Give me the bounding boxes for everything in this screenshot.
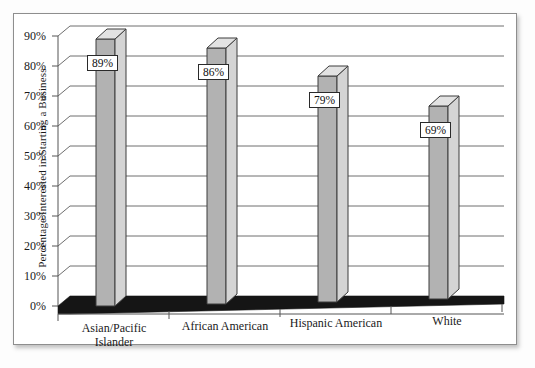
data-label-white: 69% bbox=[420, 122, 451, 138]
x-axis-label-line-1: White bbox=[387, 315, 507, 329]
chart-screenshot: Percentage Interested in Starting a Busi… bbox=[0, 0, 535, 368]
y-tick-label-90: 90% bbox=[0, 30, 46, 42]
x-axis-label-line-1: Asian/Pacific bbox=[54, 322, 174, 336]
plot-area: Percentage Interested in Starting a Busi… bbox=[14, 14, 518, 346]
data-label-african-american: 86% bbox=[198, 64, 229, 80]
x-axis-label-asian-pacific-islander: Asian/Pacific Islander bbox=[54, 322, 174, 349]
bar-front-face bbox=[96, 39, 115, 306]
chart-frame: Percentage Interested in Starting a Busi… bbox=[13, 13, 517, 345]
x-axis-label-african-american: African American bbox=[165, 320, 285, 334]
y-tick-label-0: 0% bbox=[0, 300, 46, 312]
x-axis-label-white: White bbox=[387, 315, 507, 329]
bar-front-face bbox=[318, 76, 337, 302]
data-label-hispanic-american: 79% bbox=[309, 92, 340, 108]
y-tick-label-30: 30% bbox=[0, 210, 46, 222]
data-label-asian-pacific-islander: 89% bbox=[87, 55, 118, 71]
y-tick-label-80: 80% bbox=[0, 60, 46, 72]
y-tick-label-40: 40% bbox=[0, 180, 46, 192]
y-tick-label-20: 20% bbox=[0, 240, 46, 252]
y-tick-label-70: 70% bbox=[0, 90, 46, 102]
x-axis-label-line-2: Islander bbox=[54, 336, 174, 350]
y-tick-label-10: 10% bbox=[0, 270, 46, 282]
y-tick-label-50: 50% bbox=[0, 150, 46, 162]
x-axis-label-line-1: African American bbox=[165, 320, 285, 334]
bar-front-face bbox=[207, 48, 226, 304]
x-axis-label-line-1: Hispanic American bbox=[276, 317, 396, 331]
y-tick-label-60: 60% bbox=[0, 120, 46, 132]
y-tick-marks bbox=[52, 36, 58, 306]
x-axis-label-hispanic-american: Hispanic American bbox=[276, 317, 396, 331]
